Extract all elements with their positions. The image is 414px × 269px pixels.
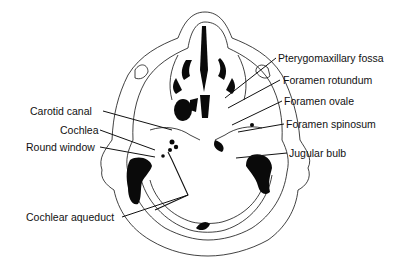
label-carotid-canal: Carotid canal [30, 105, 92, 117]
leader-foramen-spinosum [238, 124, 284, 132]
leader-cochlea [100, 130, 155, 150]
leader-foramen-ovale [232, 101, 282, 125]
label-cochlear-aqueduct: Cochlear aqueduct [26, 211, 114, 223]
label-round-window: Round window [26, 141, 95, 153]
label-jugular-bulb: Jugular bulb [289, 147, 346, 159]
label-foramen-spinosum: Foramen spinosum [286, 118, 376, 130]
label-pterygomaxillary-fossa: Pterygomaxillary fossa [278, 52, 384, 64]
label-cochlea: Cochlea [60, 124, 99, 136]
leader-pterygomaxillary-fossa [225, 58, 276, 98]
right-mastoid [246, 154, 272, 194]
label-foramen-ovale: Foramen ovale [284, 95, 354, 107]
leader-foramen-rotundum [228, 80, 280, 108]
label-foramen-rotundum: Foramen rotundum [283, 74, 372, 86]
left-mastoid [127, 158, 152, 205]
nasal-cavity [200, 26, 208, 92]
skull-base-diagram: Carotid canal Cochlea Round window Cochl… [0, 0, 414, 269]
